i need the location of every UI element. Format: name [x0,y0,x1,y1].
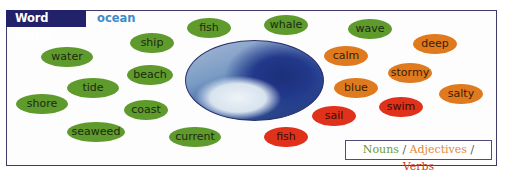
word-bubble-adj: salty [439,84,483,104]
word-bubble-noun: coast [124,100,168,120]
legend: Nouns / Adjectives / Verbs [345,140,492,160]
word-bubble-verb: fish [264,127,308,147]
word-bubble-noun: wave [348,19,392,39]
word-bubble-noun: whale [264,15,308,35]
legend-nouns: Nouns [363,143,399,156]
ocean-wave-image [185,40,324,121]
word-bubble-noun: fish [187,18,231,38]
word-bubble-verb: sail [312,106,356,126]
word-bubble-noun: shore [16,94,68,114]
word-bubble-adj: calm [324,46,368,66]
word-bubble-verb: swim [379,97,423,117]
word-bubble-adj: deep [413,34,457,54]
word-bubble-noun: seaweed [67,122,125,142]
topic-label: ocean [97,10,135,27]
page-title: Word World [6,10,86,27]
word-bubble-noun: current [169,127,221,147]
word-bubble-noun: ship [130,33,174,53]
word-bubble-adj: stormy [388,63,432,83]
legend-separator: / [402,143,406,156]
legend-verbs: Verbs [403,160,434,173]
word-bubble-adj: blue [334,78,378,98]
word-bubble-noun: tide [67,78,119,98]
legend-adjectives: Adjectives [410,143,467,156]
word-bubble-noun: beach [127,65,173,85]
word-bubble-noun: water [41,47,93,67]
legend-separator: / [470,143,474,156]
